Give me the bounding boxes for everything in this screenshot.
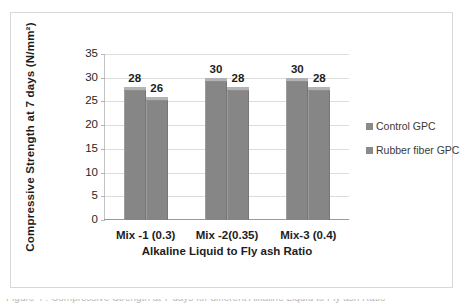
bar-group: 3028	[186, 54, 267, 220]
caption-text: Figure 4 : Compressive Strength at 7 day…	[6, 299, 436, 303]
y-tick-label: 0	[92, 214, 98, 226]
y-tick-mark	[101, 220, 105, 221]
bar[interactable]: 26	[146, 97, 168, 220]
legend-label: Rubber fiber GPC	[376, 144, 459, 156]
x-axis-title: Alkaline Liquid to Fly ash Ratio	[105, 245, 349, 257]
plot-area: 05101520253035 282630283028 Mix -1 (0.3)…	[105, 54, 349, 220]
bar-value-label: 26	[150, 82, 163, 94]
plot-wrap: 05101520253035 282630283028 Mix -1 (0.3)…	[105, 54, 349, 220]
y-tick-label: 35	[85, 48, 98, 60]
bar-value-label: 30	[210, 63, 223, 75]
legend-swatch-icon	[366, 123, 373, 130]
y-tick-label: 30	[85, 72, 98, 84]
y-axis-title-text: Compressive Strength at 7 days (N/mm²)	[24, 22, 36, 251]
x-tick-label: Mix-3 (0.4)	[280, 229, 336, 241]
chart-legend: Control GPCRubber fiber GPC	[366, 120, 459, 168]
bar[interactable]: 28	[308, 87, 330, 220]
legend-item[interactable]: Rubber fiber GPC	[366, 144, 459, 156]
chart-frame: Compressive Strength at 7 days (N/mm²) 0…	[10, 12, 453, 288]
bar[interactable]: 28	[227, 87, 249, 220]
bar-group: 2826	[105, 54, 186, 220]
bar-value-label: 30	[291, 63, 304, 75]
y-tick-label: 10	[85, 167, 98, 179]
bar-value-label: 28	[313, 72, 326, 84]
y-axis-title: Compressive Strength at 7 days (N/mm²)	[21, 54, 39, 220]
bar[interactable]: 28	[124, 87, 146, 220]
x-tick-label: Mix -2(0.35)	[196, 229, 259, 241]
x-tick-label: Mix -1 (0.3)	[116, 229, 175, 241]
legend-swatch-icon	[366, 147, 373, 154]
legend-item[interactable]: Control GPC	[366, 120, 459, 132]
y-tick-label: 15	[85, 143, 98, 155]
bar[interactable]: 30	[205, 78, 227, 220]
caption-cutoff-sliver: Figure 4 : Compressive Strength at 7 day…	[6, 299, 436, 307]
y-tick-label: 5	[92, 191, 98, 203]
bar[interactable]: 30	[286, 78, 308, 220]
bar-value-label: 28	[128, 72, 141, 84]
bar-value-label: 28	[232, 72, 245, 84]
legend-label: Control GPC	[376, 120, 436, 132]
y-tick-label: 25	[85, 96, 98, 108]
bar-group: 3028	[268, 54, 349, 220]
y-tick-label: 20	[85, 119, 98, 131]
